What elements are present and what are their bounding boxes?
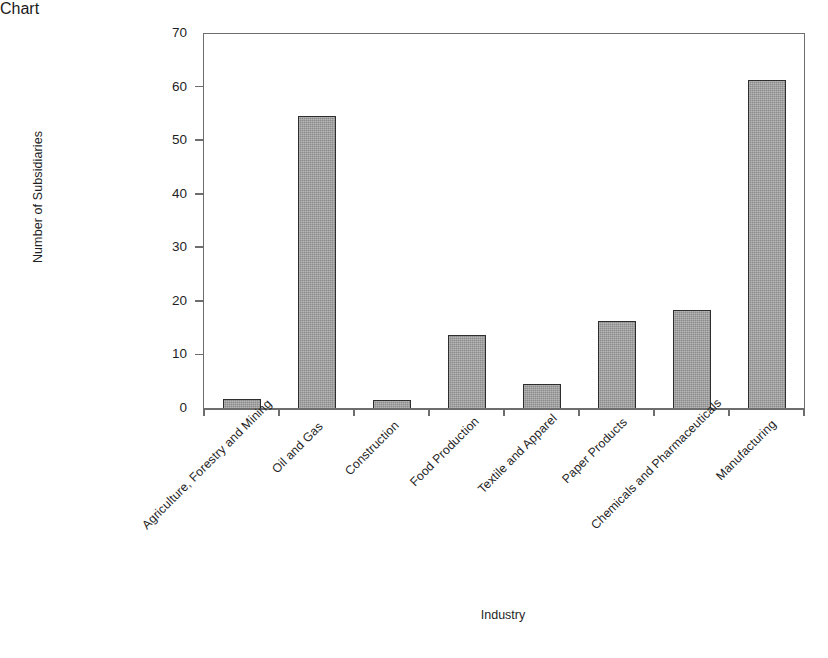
bar <box>598 321 636 409</box>
y-axis-tick-label: 0 <box>179 398 187 417</box>
bar <box>523 384 561 409</box>
x-axis-category-label: Paper Products <box>560 415 631 486</box>
y-axis-title: Number of Subsidiaries <box>31 87 45 307</box>
bar-chart: Number of Subsidiaries 706050403020100 A… <box>0 0 828 658</box>
y-axis-tick-mark <box>195 139 203 141</box>
x-axis-tick-mark <box>803 408 805 416</box>
y-axis-tick-label: 10 <box>172 344 187 363</box>
plot-area <box>203 33 805 409</box>
y-axis-tick-label: 20 <box>172 291 187 310</box>
y-axis-tick-mark <box>195 300 203 302</box>
x-axis-tick-mark <box>428 408 430 416</box>
y-axis-tick-mark <box>195 246 203 248</box>
x-axis-title: Industry <box>203 608 803 622</box>
bar <box>448 335 486 409</box>
y-axis-tick-mark <box>195 86 203 88</box>
x-axis-tick-mark <box>653 408 655 416</box>
x-axis-tick-mark <box>203 408 205 416</box>
y-axis-tick-mark <box>195 193 203 195</box>
y-axis-tick-mark <box>195 354 203 356</box>
x-axis-tick-mark <box>578 408 580 416</box>
bar <box>748 80 786 409</box>
x-axis-category-label: Construction <box>342 419 402 479</box>
x-axis-category-label: Food Production <box>407 414 482 489</box>
x-axis-category-label: Chemicals and Pharmaceuticals <box>588 396 724 532</box>
y-axis-tick-label: 50 <box>172 130 187 149</box>
x-axis-category-label: Manufacturing <box>713 417 779 483</box>
x-axis-tick-mark <box>728 408 730 416</box>
x-axis-category-label: Agriculture, Forestry and Mining <box>139 396 274 531</box>
y-axis-tick-label: 60 <box>172 77 187 96</box>
y-axis-tick-label: 70 <box>172 23 187 42</box>
bar <box>298 116 336 409</box>
y-axis-tick-label: 30 <box>172 237 187 256</box>
y-axis-tick-label: 40 <box>172 184 187 203</box>
bar <box>673 310 711 409</box>
x-axis-tick-mark <box>278 408 280 416</box>
x-axis-tick-mark <box>503 408 505 416</box>
x-axis-category-label: Oil and Gas <box>270 419 327 476</box>
x-axis-category-label: Textile and Apparel <box>475 411 560 496</box>
x-axis-tick-mark <box>353 408 355 416</box>
